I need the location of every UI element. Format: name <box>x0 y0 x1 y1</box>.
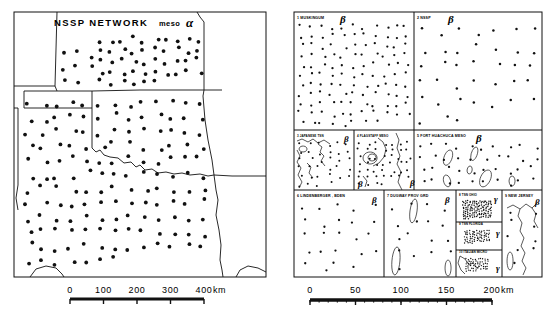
subpanel-labels: 1 MUSKINGUMβ2 NSSPβ3 JAPANESE TSNβ4 FLAG… <box>297 13 540 273</box>
left-scale-label: 100 <box>95 285 112 295</box>
subpanel-greek-4: β <box>409 178 415 188</box>
left-scale-bar: 0100200300400km <box>67 285 226 304</box>
left-map-frame <box>14 12 266 277</box>
left-map-svg: NSSP NETWORK meso α 0100200300400km <box>0 0 280 317</box>
left-meso-word: meso <box>159 19 180 28</box>
right-scale-bar: 050100150200km <box>307 285 514 305</box>
right-scale-unit: km <box>501 285 514 295</box>
left-title: NSSP NETWORK <box>54 17 148 28</box>
subpanel-greek-11: γ <box>496 263 500 273</box>
subpanel-greek-8: γ <box>494 194 498 204</box>
right-scale-label: 100 <box>393 285 410 295</box>
subpanel-label-7: 7 DUGWAY PROV GRD <box>387 194 429 198</box>
left-greek-alpha: α <box>186 15 194 30</box>
state-boundaries <box>14 12 266 277</box>
subpanel-label-4: 4 FLAGSTAFF MESO <box>357 134 389 138</box>
subpanel-label-9: 9 NEW JERSEY <box>505 194 534 198</box>
right-scale-label: 0 <box>307 285 313 295</box>
subpanel-greek-10: γ <box>496 228 500 238</box>
left-station-dots <box>23 34 207 266</box>
left-scale-label: 300 <box>162 285 179 295</box>
subpanel-label-6: 6 LINDENBERGER , BDEN <box>297 194 345 198</box>
subpanel-label-8: 8 TSN OHIO <box>459 193 478 197</box>
right-map-svg: 1 MUSKINGUMβ2 NSSPβ3 JAPANESE TSNβ4 FLAG… <box>280 0 557 317</box>
right-station-dots <box>297 23 539 272</box>
subpanel-frames <box>294 12 542 277</box>
subpanel-label-1: 1 MUSKINGUM <box>297 16 324 20</box>
left-map-panel: NSSP NETWORK meso α 0100200300400km <box>0 0 280 317</box>
right-scale-label: 200 <box>484 285 501 295</box>
right-map-panel: 1 MUSKINGUMβ2 NSSPβ3 JAPANESE TSNβ4 FLAG… <box>280 0 557 317</box>
subpanel-label-3: 3 JAPANESE TSN <box>297 134 324 138</box>
left-scale-unit: km <box>213 285 226 295</box>
subpanel-label-11: 10 ITALIAN MICRO <box>459 250 488 254</box>
left-scale-label: 400 <box>196 285 213 295</box>
left-scale-label: 0 <box>67 285 73 295</box>
right-scale-label: 50 <box>350 285 361 295</box>
left-scale-label: 200 <box>129 285 146 295</box>
subpanel-greek-7: β <box>444 195 450 205</box>
figure-root: NSSP NETWORK meso α 0100200300400km <box>0 0 557 317</box>
subpanel-label-5: 5 FORT HUACHUCA MESO <box>417 134 466 138</box>
subpanel-greek-1: β <box>339 13 346 25</box>
subpanel-label-2: 2 NSSP <box>417 16 431 20</box>
subpanel-greek-5: β <box>475 132 482 144</box>
subpanel-greek-2: β <box>447 13 454 25</box>
subpanel-greek-6: β <box>371 195 377 205</box>
subpanel-label-10: 9 TSN FLORIDA <box>459 222 484 226</box>
right-scale-label: 150 <box>438 285 455 295</box>
subpanel-greek-3: β <box>343 134 349 144</box>
